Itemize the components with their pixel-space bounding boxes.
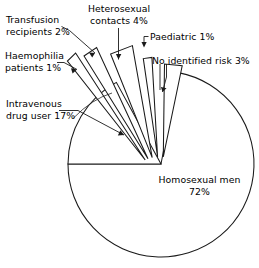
label-haemophilia-patients-line2: patients 1% (5, 62, 61, 73)
label-transfusion-recipients-line1: Transfusion (6, 14, 59, 25)
label-haemophilia-patients-line1: Haemophilia (5, 50, 64, 61)
label-intravenous-drug-user: Intravenousdrug user 17% (6, 98, 75, 121)
pie-chart-figure: Transfusionrecipients 2% Haemophiliapati… (0, 0, 259, 268)
label-intravenous-drug-user-line1: Intravenous (6, 98, 62, 109)
label-no-identified-risk: No identified risk 3% (152, 55, 250, 67)
label-haemophilia-patients: Haemophiliapatients 1% (5, 50, 64, 73)
label-intravenous-drug-user-line2: drug user 17% (6, 110, 75, 121)
label-paediatric: Paediatric 1% (150, 31, 214, 43)
label-heterosexual-contacts-line2: contacts 4% (90, 15, 148, 26)
label-transfusion-recipients: Transfusionrecipients 2% (6, 14, 70, 37)
label-homosexual-men-line1: Homosexual men (159, 174, 241, 185)
leader-line-paediatric (144, 37, 149, 42)
label-transfusion-recipients-line2: recipients 2% (6, 26, 70, 37)
label-heterosexual-contacts: Heterosexualcontacts 4% (78, 3, 160, 26)
pie-chart-canvas (0, 0, 259, 268)
label-homosexual-men: Homosexual men72% (152, 174, 247, 197)
label-heterosexual-contacts-line1: Heterosexual (88, 3, 150, 14)
label-homosexual-men-value: 72% (189, 186, 210, 197)
